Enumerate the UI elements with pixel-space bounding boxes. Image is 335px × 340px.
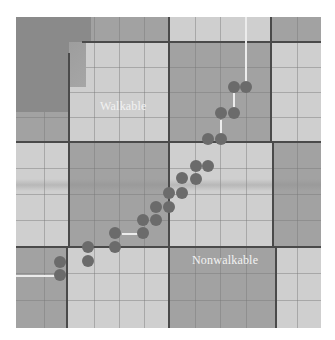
footstep-dot <box>202 133 214 145</box>
end-path-line <box>245 17 247 87</box>
footstep-dot <box>240 81 252 93</box>
footstep-dot <box>54 269 66 281</box>
footstep-dot <box>202 160 214 172</box>
nonwalkable-label: Nonwalkable <box>192 253 258 268</box>
footstep-dot <box>215 107 227 119</box>
footstep-planning-figure: Walkable Nonwalkable <box>16 17 321 328</box>
footstep-dot <box>137 214 149 226</box>
footstep-dot <box>163 187 175 199</box>
major-grid-line <box>16 141 321 143</box>
major-grid-line <box>270 17 272 142</box>
footstep-dot <box>228 81 240 93</box>
major-grid-line <box>68 53 70 247</box>
footstep-dot <box>190 160 202 172</box>
footstep-dot <box>109 241 121 253</box>
footstep-dot <box>109 227 121 239</box>
footstep-dot <box>163 201 175 213</box>
major-grid-line <box>275 247 277 328</box>
major-grid-line <box>82 41 321 43</box>
tile <box>271 17 321 42</box>
major-grid-line <box>272 142 274 247</box>
footstep-dot <box>215 133 227 145</box>
footstep-dot <box>137 227 149 239</box>
major-grid-line <box>168 17 170 328</box>
footstep-dot <box>150 214 162 226</box>
footstep-dot <box>82 255 94 267</box>
footstep-dot <box>150 201 162 213</box>
major-grid-line <box>66 247 68 328</box>
footstep-dot <box>82 241 94 253</box>
footstep-dot <box>228 107 240 119</box>
footstep-dot <box>176 172 188 184</box>
footstep-dot <box>176 187 188 199</box>
major-grid-line <box>16 246 321 248</box>
footstep-dot <box>190 173 202 185</box>
wall-obstacle <box>16 17 91 42</box>
tile <box>276 247 321 328</box>
footstep-dot <box>54 256 66 268</box>
walkable-label: Walkable <box>100 99 147 114</box>
